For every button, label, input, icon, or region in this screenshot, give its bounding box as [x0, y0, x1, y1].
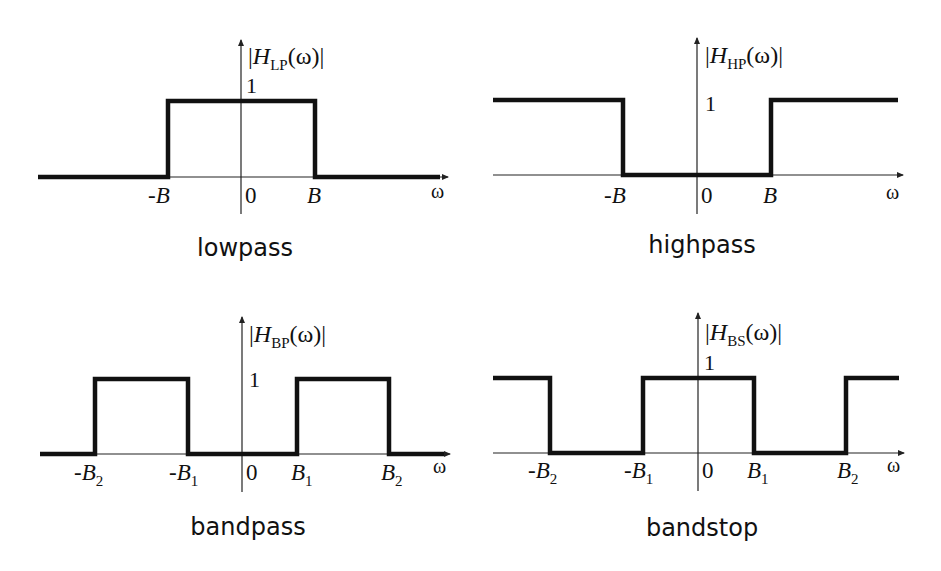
lowpass-panel: |HLP(ω)| 1 -B 0 B ω lowpass	[38, 40, 448, 262]
tick-zero: 0	[701, 183, 713, 208]
tick-b1: B1	[291, 460, 313, 489]
tick-b: B	[307, 183, 321, 208]
highpass-response	[493, 100, 898, 175]
bandstop-panel: |HBS(ω)| 1 -B2 -B1 0 B1 B2 ω bandstop	[493, 313, 904, 542]
y-axis-label: |HLP(ω)|	[248, 43, 324, 73]
x-axis-label: ω	[431, 180, 444, 202]
one-label: 1	[704, 350, 715, 375]
y-axis-label: |HBP(ω)|	[249, 321, 326, 351]
bandpass-panel: |HBP(ω)| 1 -B2 -B1 0 B1 B2 ω bandpass	[40, 317, 450, 541]
one-label: 1	[705, 91, 716, 116]
bandstop-response	[493, 378, 899, 453]
y-axis-label: |HBS(ω)|	[705, 319, 782, 349]
one-label: 1	[246, 73, 257, 98]
y-axis-label: |HHP(ω)|	[705, 42, 783, 72]
tick-zero: 0	[246, 460, 258, 485]
tick-b2: B2	[837, 458, 859, 487]
lowpass-response	[38, 101, 440, 177]
caption-highpass: highpass	[648, 231, 755, 259]
x-axis-label: ω	[887, 454, 900, 476]
tick-neg-b2: -B2	[74, 460, 103, 489]
tick-zero: 0	[245, 183, 257, 208]
one-label: 1	[249, 367, 260, 392]
caption-lowpass: lowpass	[197, 234, 293, 262]
x-axis-label: ω	[886, 181, 899, 203]
tick-neg-b: -B	[148, 183, 170, 208]
tick-neg-b1: -B1	[624, 458, 653, 487]
tick-neg-b1: -B1	[169, 460, 198, 489]
tick-b2: B2	[381, 460, 403, 489]
tick-neg-b2: -B2	[528, 458, 557, 487]
tick-zero: 0	[702, 458, 714, 483]
highpass-panel: |HHP(ω)| 1 -B 0 B ω highpass	[493, 38, 903, 259]
filter-types-diagram: |HLP(ω)| 1 -B 0 B ω lowpass |HHP(ω)| 1 -…	[0, 0, 941, 571]
tick-neg-b: -B	[604, 183, 626, 208]
tick-b1: B1	[747, 458, 769, 487]
x-axis-label: ω	[433, 455, 446, 477]
caption-bandpass: bandpass	[190, 513, 305, 541]
tick-b: B	[763, 183, 777, 208]
caption-bandstop: bandstop	[646, 514, 758, 542]
